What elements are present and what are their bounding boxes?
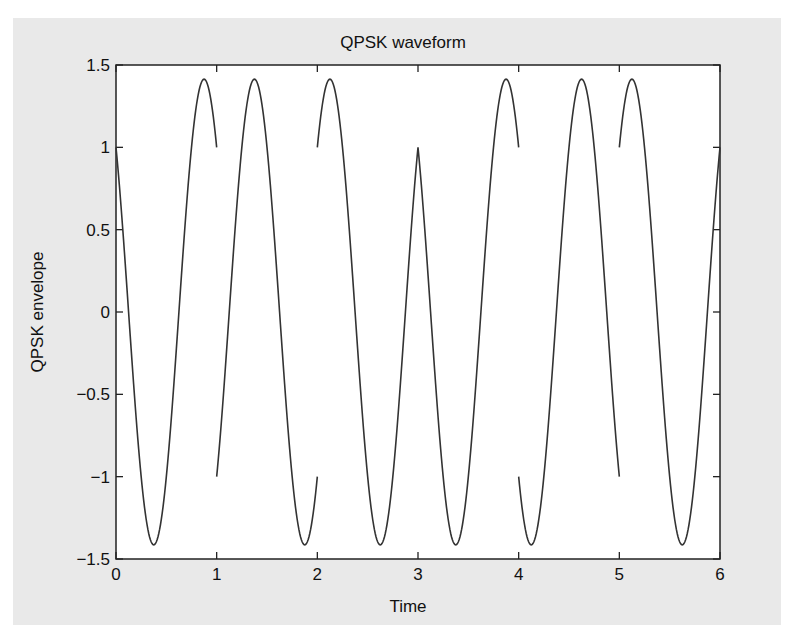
x-tick-label: 1 (212, 565, 221, 584)
chart-title: QPSK waveform (340, 33, 466, 52)
y-axis-label: QPSK envelope (28, 252, 47, 373)
x-tick-label: 2 (313, 565, 322, 584)
y-tick-label: 1 (101, 138, 110, 157)
chart: QPSK waveform −1.5−1−0.500.511.5 0123456… (13, 18, 781, 625)
y-tick-label: −1.5 (76, 550, 110, 569)
figure-panel: QPSK waveform −1.5−1−0.500.511.5 0123456… (13, 18, 781, 625)
x-tick-label: 4 (514, 565, 523, 584)
x-tick-label: 5 (615, 565, 624, 584)
x-axis-label: Time (389, 597, 426, 616)
y-tick-label: 0.5 (86, 221, 110, 240)
y-tick-label: 1.5 (86, 56, 110, 75)
y-tick-label: −1 (91, 468, 110, 487)
y-tick-label: −0.5 (76, 385, 110, 404)
x-tick-label: 0 (111, 565, 120, 584)
x-tick-label: 3 (413, 565, 422, 584)
x-tick-label: 6 (715, 565, 724, 584)
axes-area (116, 65, 720, 559)
y-tick-label: 0 (101, 303, 110, 322)
